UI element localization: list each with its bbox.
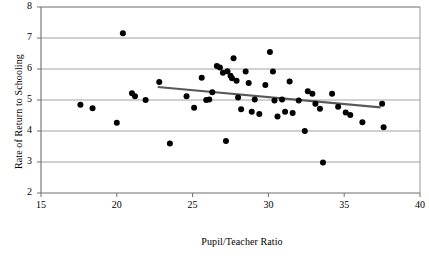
data-point xyxy=(267,49,273,55)
y-tick-label: 5 xyxy=(16,93,32,104)
data-point xyxy=(317,106,323,112)
y-tick-label: 4 xyxy=(16,124,32,135)
data-point xyxy=(347,112,353,118)
data-point xyxy=(379,101,385,107)
data-point xyxy=(199,75,205,81)
data-point xyxy=(246,80,252,86)
data-point xyxy=(243,68,249,74)
data-point xyxy=(359,119,365,125)
y-tick-label: 6 xyxy=(16,62,32,73)
data-point xyxy=(249,109,255,115)
data-point xyxy=(329,91,335,97)
data-point xyxy=(120,30,126,36)
gridlines xyxy=(41,7,420,162)
data-point xyxy=(335,104,341,110)
data-point xyxy=(231,55,237,61)
data-point xyxy=(114,120,120,126)
data-point xyxy=(191,105,197,111)
data-point xyxy=(262,82,268,88)
data-point xyxy=(167,140,173,146)
data-point xyxy=(156,79,162,85)
data-point xyxy=(252,96,258,102)
y-tick-label: 2 xyxy=(16,186,32,197)
x-tick-label: 25 xyxy=(182,199,204,210)
y-tick-label: 7 xyxy=(16,31,32,42)
plot-canvas xyxy=(0,0,429,262)
data-point xyxy=(312,101,318,107)
data-point xyxy=(234,78,240,84)
data-point xyxy=(206,96,212,102)
x-tick-label: 40 xyxy=(409,199,429,210)
x-tick-label: 30 xyxy=(257,199,279,210)
data-point xyxy=(309,91,315,97)
data-point xyxy=(282,109,288,115)
data-point xyxy=(217,64,223,70)
data-point xyxy=(90,105,96,111)
y-tick-label: 3 xyxy=(16,155,32,166)
x-tick-label: 20 xyxy=(106,199,128,210)
data-point xyxy=(320,160,326,166)
data-point xyxy=(271,98,277,104)
trendline xyxy=(158,87,381,107)
data-point xyxy=(279,96,285,102)
data-point xyxy=(184,93,190,99)
data-point xyxy=(302,128,308,134)
data-point xyxy=(290,110,296,116)
tick-marks xyxy=(37,7,420,197)
x-tick-label: 15 xyxy=(30,199,52,210)
data-point xyxy=(143,97,149,103)
data-point xyxy=(235,95,241,101)
x-tick-label: 35 xyxy=(333,199,355,210)
data-point xyxy=(296,98,302,104)
data-point xyxy=(287,78,293,84)
x-axis-title: Pupil/Teacher Ratio xyxy=(172,236,312,247)
data-point xyxy=(223,138,229,144)
data-point xyxy=(238,106,244,112)
data-point xyxy=(274,113,280,119)
data-point xyxy=(256,111,262,117)
data-points xyxy=(77,30,386,165)
data-point xyxy=(132,93,138,99)
scatter-chart: Rate of Return to Schooling Pupil/Teache… xyxy=(0,0,429,262)
data-point xyxy=(77,102,83,108)
data-point xyxy=(270,68,276,74)
data-point xyxy=(381,124,387,130)
data-point xyxy=(209,89,215,95)
y-tick-label: 8 xyxy=(16,0,32,11)
